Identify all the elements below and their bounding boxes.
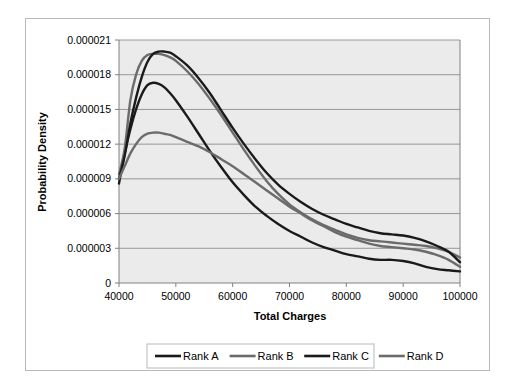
x-tick-label: 50000 <box>161 290 190 302</box>
legend-label[interactable]: Rank D <box>407 350 444 362</box>
x-axis-ticks <box>119 283 460 287</box>
x-tick-label: 80000 <box>332 290 361 302</box>
y-axis-title: Probability Density <box>36 111 48 212</box>
x-tick-label: 90000 <box>389 290 418 302</box>
x-axis-title: Total Charges <box>254 310 327 322</box>
plot-area-background <box>119 40 460 283</box>
y-tick-label: 0.000021 <box>67 34 111 46</box>
legend-label[interactable]: Rank A <box>183 350 219 362</box>
legend-label[interactable]: Rank B <box>258 350 294 362</box>
legend-label[interactable]: Rank C <box>332 350 369 362</box>
x-tick-label: 60000 <box>218 290 247 302</box>
y-tick-label: 0.000003 <box>67 242 111 254</box>
chart-canvas: 00.0000030.0000060.0000090.0000120.00001… <box>0 0 516 389</box>
x-tick-label: 40000 <box>104 290 133 302</box>
x-tick-label: 100000 <box>442 290 477 302</box>
x-axis-tick-labels: 400005000060000700008000090000100000 <box>104 290 477 302</box>
y-tick-label: 0 <box>105 277 111 289</box>
x-tick-label: 70000 <box>275 290 304 302</box>
y-tick-label: 0.000012 <box>67 138 111 150</box>
probability-density-line-chart: 00.0000030.0000060.0000090.0000120.00001… <box>0 0 516 389</box>
y-axis-tick-labels: 00.0000030.0000060.0000090.0000120.00001… <box>67 34 111 289</box>
y-tick-label: 0.000009 <box>67 172 111 184</box>
y-tick-label: 0.000006 <box>67 207 111 219</box>
y-tick-label: 0.000015 <box>67 103 111 115</box>
y-tick-label: 0.000018 <box>67 68 111 80</box>
